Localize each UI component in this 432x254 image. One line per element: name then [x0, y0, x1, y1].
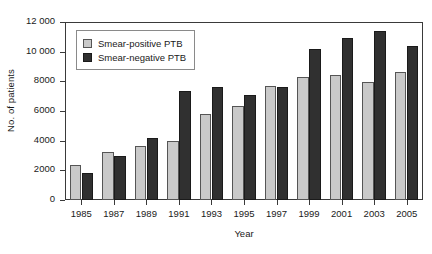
legend-swatch-icon — [83, 39, 92, 48]
x-axis-tick-mark — [374, 200, 375, 205]
y-axis-tick-mark — [60, 141, 65, 142]
y-axis-tick-mark — [60, 52, 65, 53]
bar-smear-positive-1995 — [232, 106, 244, 200]
bar-smear-positive-1987 — [102, 152, 114, 200]
x-axis-tick-mark — [342, 200, 343, 205]
bar-smear-positive-1993 — [200, 114, 212, 200]
bar-smear-positive-1989 — [135, 146, 147, 200]
y-axis-tick-label: 12 000 — [26, 15, 55, 26]
y-axis-tick-mark — [60, 111, 65, 112]
x-axis-tick-mark — [211, 200, 212, 205]
y-axis-tick-label: 8000 — [34, 74, 55, 85]
legend-entry: Smear-negative PTB — [83, 50, 186, 64]
legend-entry: Smear-positive PTB — [83, 36, 186, 50]
x-axis-tick-mark — [277, 200, 278, 205]
bar-chart-figure: No. of patients 0200040006000800010 0001… — [0, 0, 432, 254]
bar-smear-negative-1999 — [309, 49, 321, 200]
bar-smear-positive-1985 — [70, 165, 82, 200]
bar-smear-negative-1993 — [212, 87, 224, 200]
bar-smear-negative-1995 — [244, 95, 256, 200]
y-axis-title: No. of patients — [0, 0, 20, 200]
bar-smear-negative-1985 — [82, 173, 94, 200]
y-axis-tick-label: 0 — [50, 193, 55, 204]
x-axis-tick-mark — [146, 200, 147, 205]
bar-smear-negative-2003 — [374, 31, 386, 200]
x-axis-tick-mark — [244, 200, 245, 205]
x-axis-tick-mark — [81, 200, 82, 205]
x-axis-tick-mark — [309, 200, 310, 205]
bar-smear-positive-1997 — [265, 86, 277, 200]
bar-smear-negative-1991 — [179, 91, 191, 200]
x-axis-tick-mark — [407, 200, 408, 205]
legend-entry-label: Smear-negative PTB — [98, 52, 186, 63]
bar-smear-negative-1987 — [114, 156, 126, 200]
bar-smear-negative-1989 — [147, 138, 159, 200]
bar-smear-negative-2001 — [342, 38, 354, 200]
bar-smear-positive-2005 — [395, 72, 407, 200]
y-axis-tick-label: 4000 — [34, 134, 55, 145]
x-axis-tick-mark — [179, 200, 180, 205]
bar-smear-positive-1999 — [297, 77, 309, 200]
y-axis-tick-mark — [60, 170, 65, 171]
y-axis-tick-label: 10 000 — [26, 45, 55, 56]
y-axis-tick-label: 2000 — [34, 163, 55, 174]
y-axis-tick-mark — [60, 22, 65, 23]
y-axis-title-label: No. of patients — [5, 69, 16, 132]
x-axis-tick-mark — [114, 200, 115, 205]
legend-entry-label: Smear-positive PTB — [98, 38, 182, 49]
bar-smear-negative-1997 — [277, 87, 289, 200]
chart-legend: Smear-positive PTBSmear-negative PTB — [76, 30, 195, 70]
y-axis-tick-mark — [60, 200, 65, 201]
x-axis-title: Year — [65, 228, 423, 239]
bar-smear-negative-2005 — [407, 46, 419, 200]
x-axis-tick-label: 2005 — [385, 208, 429, 219]
legend-swatch-icon — [83, 53, 92, 62]
y-axis-tick-mark — [60, 81, 65, 82]
y-axis-tick-label: 6000 — [34, 104, 55, 115]
bar-smear-positive-1991 — [167, 141, 179, 200]
bar-smear-positive-2003 — [362, 82, 374, 200]
bar-smear-positive-2001 — [330, 75, 342, 200]
